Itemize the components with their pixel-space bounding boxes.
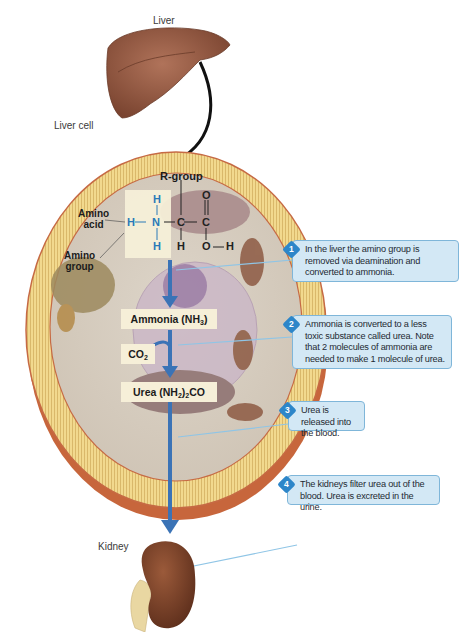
atom-h-hydroxyl: H [226,240,234,252]
liver-label: Liver [153,15,175,26]
ammonia-box: Ammonia (NH3) [121,309,217,329]
urea-box: Urea (NH2)2CO [121,382,217,402]
atom-n: N [152,216,160,228]
amino-acid-label: Amino acid [78,208,109,230]
kidney-organ [131,541,195,632]
atom-o-single: O [202,240,211,252]
callout-step-2: 2 Ammonia is converted to a less toxic s… [292,315,452,369]
liver-cell-label: Liver cell [54,120,93,131]
atom-h-bottom: H [153,240,161,252]
atom-h-left: H [127,216,135,228]
kidney-label: Kidney [98,541,129,552]
atom-h-alpha: H [177,240,185,252]
callout-step-4: 4 The kidneys filter urea out of the blo… [287,475,440,505]
atom-o-double: O [202,189,211,201]
callout-step-1: 1 In the liver the amino group is remove… [292,240,459,282]
atom-c-alpha: C [177,216,185,228]
amino-group-label: Amino group [64,250,95,272]
callout-step-3: 3 Urea is released into the blood. [288,401,365,431]
atom-h-top: H [153,193,161,205]
atom-c-carboxyl: C [202,216,210,228]
r-group-label: R-group [160,171,203,182]
co2-box: CO2 [121,344,155,364]
